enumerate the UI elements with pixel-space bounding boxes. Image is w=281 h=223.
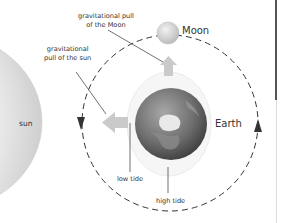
sun-pull-label: gravitational pull of the sun [44,45,91,63]
moon-pull-label-line1: gravitational pull [78,12,134,21]
earth-label: Earth [215,118,242,129]
sun-pull-label-line2: pull of the sun [44,54,91,63]
sun-label: sun [19,119,32,128]
page-edge-divider-light [276,100,277,223]
low-tide-label: low tide [117,175,143,184]
tide-diagram [0,0,281,223]
moon-icon [157,22,179,44]
moon-pull-label-line2: of the Moon [78,21,134,30]
arrow-toward-sun-icon [102,112,128,133]
sun-pull-leader [76,72,106,114]
page-edge-divider [275,0,277,100]
moon-label: Moon [182,25,209,36]
high-tide-label: high tide [156,197,185,206]
moon-pull-label: gravitational pull of the Moon [78,12,134,30]
earth-icon [135,88,207,160]
moon-pull-leader [108,30,163,62]
sun-pull-label-line1: gravitational [44,45,91,54]
